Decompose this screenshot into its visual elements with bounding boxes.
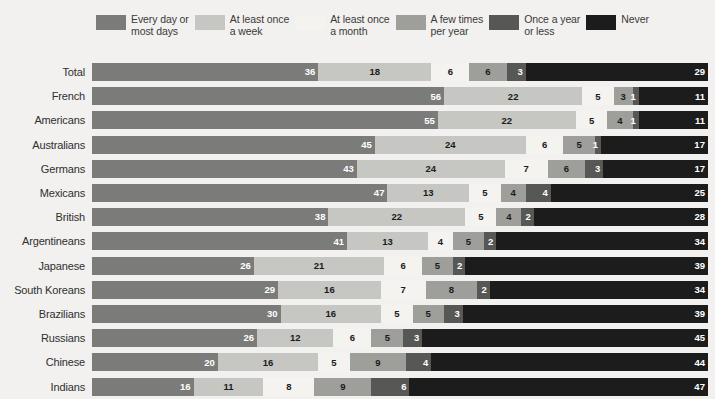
bar-segment[interactable]: 24 <box>357 160 505 178</box>
bar-segment[interactable]: 41 <box>92 232 347 250</box>
bar-segment[interactable]: 3 <box>585 160 603 178</box>
bar-segment[interactable]: 47 <box>409 378 707 396</box>
bar-segment[interactable]: 45 <box>92 136 375 154</box>
bar-segment[interactable]: 26 <box>92 329 257 347</box>
bar-segment[interactable]: 3 <box>444 305 463 323</box>
stacked-bar: 562253111 <box>92 87 708 105</box>
bar-segment[interactable]: 5 <box>582 87 613 105</box>
bar-segment-value: 6 <box>485 67 490 77</box>
bar-segment[interactable]: 11 <box>639 111 708 129</box>
bar-segment-value: 55 <box>424 116 438 126</box>
bar-segment-value: 5 <box>331 358 336 368</box>
bar-segment[interactable]: 22 <box>438 111 576 129</box>
bar-segment[interactable]: 17 <box>603 160 708 178</box>
bar-segment[interactable]: 34 <box>490 281 708 299</box>
bar-segment[interactable]: 56 <box>92 87 444 105</box>
row-category-label: Mexicans <box>0 187 92 199</box>
bar-segment[interactable]: 3 <box>507 63 526 81</box>
bar-segment[interactable]: 6 <box>333 329 371 347</box>
bar-segment[interactable]: 8 <box>263 378 314 396</box>
legend-item[interactable]: At least once a month <box>295 14 389 37</box>
bar-segment[interactable]: 8 <box>426 281 477 299</box>
bar-segment[interactable]: 11 <box>639 87 708 105</box>
bar-segment[interactable]: 29 <box>526 63 708 81</box>
bar-segment[interactable]: 28 <box>534 208 708 226</box>
bar-segment[interactable]: 44 <box>431 353 708 371</box>
bar-segment-value: 6 <box>542 140 547 150</box>
bar-segment[interactable]: 29 <box>92 281 278 299</box>
bar-segment[interactable]: 5 <box>576 111 607 129</box>
bar-segment[interactable]: 2 <box>453 257 465 275</box>
bar-segment[interactable]: 7 <box>381 281 426 299</box>
bar-segment[interactable]: 13 <box>347 232 428 250</box>
bar-segment[interactable]: 4 <box>607 111 632 129</box>
chart-row: Indians161189647 <box>0 374 715 398</box>
bar-segment[interactable]: 47 <box>92 184 387 202</box>
bar-segment-value: 3 <box>517 67 525 77</box>
bar-segment[interactable]: 5 <box>422 257 453 275</box>
bar-segment[interactable]: 5 <box>413 305 444 323</box>
bar-segment[interactable]: 34 <box>496 232 708 250</box>
bar-segment[interactable]: 6 <box>384 257 421 275</box>
legend-item[interactable]: Never <box>586 14 649 30</box>
bar-segment[interactable]: 6 <box>526 136 564 154</box>
bar-segment[interactable]: 16 <box>92 378 194 396</box>
bar-segment[interactable]: 5 <box>563 136 594 154</box>
bar-segment[interactable]: 9 <box>350 353 407 371</box>
bar-segment[interactable]: 24 <box>375 136 526 154</box>
bar-segment[interactable]: 4 <box>496 208 521 226</box>
bar-segment[interactable]: 4 <box>501 184 526 202</box>
bar-segment[interactable]: 16 <box>218 353 319 371</box>
bar-segment[interactable]: 55 <box>92 111 438 129</box>
bar-segment[interactable]: 30 <box>92 305 281 323</box>
bar-segment[interactable]: 6 <box>431 63 469 81</box>
bar-segment[interactable]: 4 <box>406 353 431 371</box>
bar-segment[interactable]: 18 <box>318 63 431 81</box>
bar-segment[interactable]: 9 <box>314 378 371 396</box>
bar-segment[interactable]: 26 <box>92 257 254 275</box>
bar-segment[interactable]: 5 <box>381 305 412 323</box>
bar-segment[interactable]: 5 <box>453 232 484 250</box>
bar-segment[interactable]: 36 <box>92 63 318 81</box>
bar-segment[interactable]: 12 <box>257 329 333 347</box>
bar-segment[interactable]: 5 <box>318 353 349 371</box>
bar-segment[interactable]: 13 <box>387 184 469 202</box>
bar-segment[interactable]: 43 <box>92 160 357 178</box>
bar-segment[interactable]: 11 <box>194 378 264 396</box>
legend-item[interactable]: At least once a week <box>195 14 289 37</box>
legend-item[interactable]: Every day or most days <box>96 14 189 37</box>
bar-segment[interactable]: 38 <box>92 208 328 226</box>
bar-segment[interactable]: 17 <box>601 136 708 154</box>
bar-segment[interactable]: 22 <box>328 208 465 226</box>
bar-segment[interactable]: 2 <box>484 232 496 250</box>
bar-segment[interactable]: 45 <box>422 329 708 347</box>
legend-item-label: Once a year or less <box>524 14 580 37</box>
bar-segment[interactable]: 7 <box>505 160 548 178</box>
bar-segment[interactable]: 3 <box>403 329 422 347</box>
bar-segment[interactable]: 39 <box>463 305 708 323</box>
bar-segment-value: 5 <box>466 237 471 247</box>
bar-segment[interactable]: 5 <box>465 208 496 226</box>
bar-segment-value: 6 <box>448 67 453 77</box>
bar-segment[interactable]: 4 <box>428 232 453 250</box>
legend-item[interactable]: Once a year or less <box>489 14 580 37</box>
stacked-bar: 411345234 <box>92 232 708 250</box>
legend-swatch-icon <box>195 15 225 30</box>
bar-segment[interactable]: 6 <box>371 378 409 396</box>
bar-segment[interactable]: 20 <box>92 353 218 371</box>
bar-segment[interactable]: 21 <box>254 257 385 275</box>
bar-segment[interactable]: 22 <box>444 87 582 105</box>
bar-segment[interactable]: 39 <box>465 257 708 275</box>
bar-segment[interactable]: 5 <box>371 329 403 347</box>
bar-segment[interactable]: 16 <box>281 305 382 323</box>
bar-segment[interactable]: 6 <box>469 63 507 81</box>
bar-segment[interactable]: 16 <box>278 281 381 299</box>
bar-segment[interactable]: 4 <box>526 184 551 202</box>
bar-segment[interactable]: 6 <box>548 160 585 178</box>
legend-item[interactable]: A few times per year <box>396 14 484 37</box>
bar-segment[interactable]: 25 <box>551 184 708 202</box>
bar-segment[interactable]: 5 <box>469 184 500 202</box>
bar-segment-value: 16 <box>263 358 274 368</box>
bar-segment[interactable]: 2 <box>521 208 533 226</box>
bar-segment[interactable]: 2 <box>477 281 490 299</box>
